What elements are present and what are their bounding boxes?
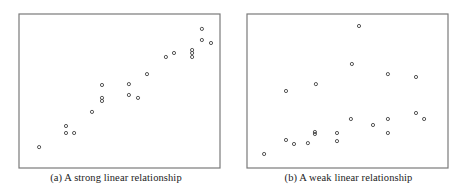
data-point — [145, 73, 148, 76]
data-point — [350, 62, 353, 65]
data-point — [386, 131, 389, 134]
scatter-points — [38, 27, 213, 148]
scatter-points — [263, 24, 426, 155]
data-point — [349, 117, 352, 120]
caption-weak: (b) A weak linear relationship — [232, 172, 465, 183]
data-point — [209, 41, 212, 44]
data-point — [371, 123, 374, 126]
data-point — [164, 55, 167, 58]
data-point — [306, 142, 309, 145]
data-point — [335, 131, 338, 134]
plot-frame — [19, 14, 220, 168]
data-point — [172, 51, 175, 54]
caption-strong: (a) A strong linear relationship — [0, 172, 232, 183]
data-point — [127, 83, 130, 86]
scatter-plot-weak — [232, 0, 465, 191]
scatter-plot-strong — [0, 0, 232, 191]
data-point — [414, 75, 417, 78]
data-point — [127, 93, 130, 96]
data-point — [292, 142, 295, 145]
data-point — [64, 131, 67, 134]
data-point — [414, 111, 417, 114]
data-point — [386, 117, 389, 120]
data-point — [335, 140, 338, 143]
data-point — [90, 110, 93, 113]
data-point — [136, 96, 139, 99]
data-point — [100, 83, 103, 86]
data-point — [73, 131, 76, 134]
data-point — [200, 27, 203, 30]
data-point — [191, 55, 194, 58]
plot-frame — [247, 14, 448, 168]
data-point — [423, 117, 426, 120]
data-point — [284, 89, 287, 92]
panel-weak-linear: (b) A weak linear relationship — [232, 0, 465, 191]
data-point — [200, 38, 203, 41]
data-point — [38, 146, 41, 149]
data-point — [314, 83, 317, 86]
data-point — [386, 73, 389, 76]
data-point — [357, 24, 360, 27]
data-point — [263, 152, 266, 155]
panel-strong-linear: (a) A strong linear relationship — [0, 0, 232, 191]
data-point — [284, 138, 287, 141]
data-point — [64, 124, 67, 127]
